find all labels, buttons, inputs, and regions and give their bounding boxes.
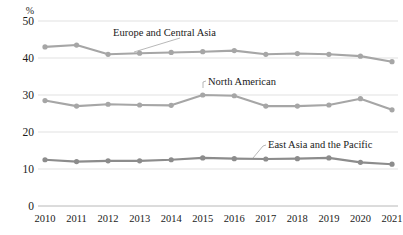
series-line (45, 158, 392, 164)
data-point (389, 59, 394, 64)
leader-line-north-america (203, 81, 206, 88)
chart-canvas: % 50 40 30 20 10 0 201020112012201320142… (0, 0, 403, 235)
data-point (326, 102, 331, 107)
x-tick-2019: 2019 (318, 213, 339, 224)
data-point (200, 155, 205, 160)
data-point (263, 156, 268, 161)
data-point (42, 44, 47, 49)
x-tick-2020: 2020 (350, 213, 371, 224)
data-point (105, 158, 110, 163)
x-tick-2010: 2010 (35, 213, 56, 224)
series-line (45, 45, 392, 62)
data-point (74, 42, 79, 47)
data-point (42, 98, 47, 103)
data-point (169, 157, 174, 162)
x-tick-2018: 2018 (287, 213, 308, 224)
data-point (232, 48, 237, 53)
series-europe-and-central-asia (42, 42, 394, 64)
data-point (326, 52, 331, 57)
data-point (389, 107, 394, 112)
data-point (358, 54, 363, 59)
y-tick-30: 30 (23, 89, 35, 101)
y-tick-40: 40 (23, 52, 35, 64)
x-axis-labels: 2010201120122013201420152016201720182019… (35, 213, 403, 224)
series-annotation-label: Europe and Central Asia (113, 27, 216, 38)
y-tick-10: 10 (23, 163, 35, 175)
data-point (295, 156, 300, 161)
data-point (169, 50, 174, 55)
data-point (232, 93, 237, 98)
data-point (105, 102, 110, 107)
data-point (137, 102, 142, 107)
data-point (137, 51, 142, 56)
x-tick-2011: 2011 (66, 213, 87, 224)
leader-line-east-asia (253, 145, 266, 158)
x-tick-2017: 2017 (255, 213, 276, 224)
leader-line-europe (134, 38, 180, 52)
y-tick-50: 50 (23, 15, 35, 27)
data-point (200, 92, 205, 97)
data-point (200, 49, 205, 54)
data-point (358, 96, 363, 101)
x-tick-2021: 2021 (382, 213, 403, 224)
data-point (326, 155, 331, 160)
data-point (263, 52, 268, 57)
x-tick-2012: 2012 (98, 213, 119, 224)
data-point (42, 157, 47, 162)
data-point (263, 104, 268, 109)
y-axis-labels: % 50 40 30 20 10 0 (23, 5, 35, 212)
annotation-leaders (134, 38, 266, 158)
data-point (169, 103, 174, 108)
annotation-labels: Europe and Central AsiaNorth AmericanEas… (113, 27, 373, 150)
data-point (358, 160, 363, 165)
data-point (137, 158, 142, 163)
x-tick-2013: 2013 (129, 213, 150, 224)
data-point (232, 156, 237, 161)
series-annotation-label: North American (208, 76, 277, 87)
y-tick-0: 0 (28, 200, 34, 212)
series-east-asia-and-the-pacific (42, 155, 394, 166)
series-annotation-label: East Asia and the Pacific (268, 139, 373, 150)
x-tick-2014: 2014 (161, 213, 183, 224)
data-point (74, 104, 79, 109)
data-point (295, 104, 300, 109)
data-point (295, 51, 300, 56)
y-tick-20: 20 (23, 126, 35, 138)
data-point (389, 162, 394, 167)
x-tick-2016: 2016 (224, 213, 245, 224)
series-line (45, 95, 392, 110)
x-tick-2015: 2015 (192, 213, 213, 224)
line-chart: % 50 40 30 20 10 0 201020112012201320142… (0, 0, 403, 235)
data-point (105, 52, 110, 57)
data-point (74, 159, 79, 164)
